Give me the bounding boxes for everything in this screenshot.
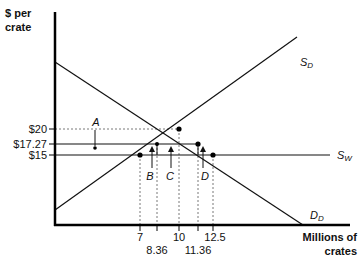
x-tick-836: 8.36 bbox=[146, 244, 167, 256]
domestic-supply-curve bbox=[55, 37, 297, 210]
y-axis-label-line1: $ per bbox=[5, 7, 32, 19]
x-tick-1136: 11.36 bbox=[185, 244, 212, 256]
x-tick-125: 12.5 bbox=[204, 231, 225, 243]
area-a-arrow-point bbox=[93, 146, 97, 150]
x-axis-label-line1: Millions of bbox=[303, 231, 358, 243]
y-tick-15: $15 bbox=[29, 149, 47, 161]
sw-label: SW bbox=[337, 149, 353, 163]
x-tick-7: 7 bbox=[137, 231, 143, 243]
area-d-label: D bbox=[201, 170, 209, 182]
dd-label: DD bbox=[310, 209, 324, 223]
area-b-label: B bbox=[146, 170, 153, 182]
tariff-chart: $ per crate Millions of crates $20 $17.2… bbox=[0, 0, 362, 263]
x-tick-10: 10 bbox=[173, 231, 185, 243]
x-axis-label-line2: crates bbox=[325, 245, 357, 257]
y-axis-label-line2: crate bbox=[5, 21, 31, 33]
sd-label: SD bbox=[300, 56, 313, 70]
area-c-label: C bbox=[166, 170, 174, 182]
y-tick-20: $20 bbox=[29, 123, 47, 135]
area-a-label: A bbox=[91, 116, 99, 128]
